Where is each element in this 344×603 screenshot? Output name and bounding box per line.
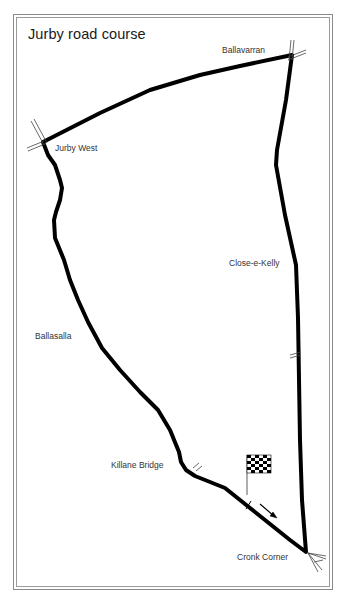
label-ballasalla: Ballasalla — [35, 331, 71, 341]
label-cronk-corner: Cronk Corner — [237, 552, 288, 562]
junction-cronk-corner — [308, 553, 326, 572]
label-close-e-kelly: Close-e-Kelly — [229, 258, 280, 268]
label-ballavarran: Ballavarran — [222, 45, 265, 55]
checkered-flag-icon — [247, 455, 271, 495]
track-path — [43, 55, 306, 552]
label-jurby-west: Jurby West — [55, 143, 97, 153]
track-map — [0, 0, 344, 603]
label-killane-bridge: Killane Bridge — [111, 460, 163, 470]
junction-killane-bridge — [193, 463, 202, 471]
